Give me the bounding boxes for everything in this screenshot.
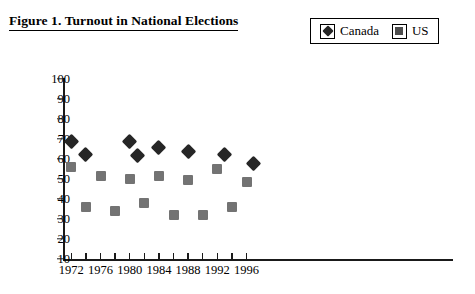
x-axis-tick-mark: [173, 253, 174, 260]
x-axis-tick-mark: [217, 253, 218, 260]
y-axis-tick-mark: [57, 178, 63, 179]
x-axis-tick-label: 1996: [234, 263, 259, 278]
x-axis-tick-label: 1980: [117, 263, 142, 278]
data-point-us: [154, 171, 164, 181]
data-point-canada: [129, 147, 145, 163]
y-axis-tick-mark: [57, 118, 63, 119]
data-point-us: [125, 174, 135, 184]
x-axis-tick-mark: [158, 253, 159, 260]
data-point-us: [96, 171, 106, 181]
x-axis-tick-mark: [231, 253, 232, 260]
y-axis-tick-mark: [57, 238, 63, 239]
data-point-us: [198, 210, 208, 220]
x-axis-tick-mark: [144, 253, 145, 260]
y-axis-tick-mark: [57, 138, 63, 139]
x-axis-tick-mark: [187, 253, 188, 260]
x-axis-tick-label: 1988: [176, 263, 201, 278]
y-axis-tick-mark: [57, 78, 63, 79]
x-axis-tick-mark: [129, 253, 130, 260]
figure-container: Figure 1. Turnout in National Elections …: [0, 0, 475, 294]
x-axis-tick-label: 1984: [146, 263, 171, 278]
x-axis-tick-mark: [246, 253, 247, 260]
x-axis-tick-mark: [100, 253, 101, 260]
data-point-us: [110, 206, 120, 216]
data-point-canada: [180, 143, 196, 159]
x-axis-tick-mark: [71, 253, 72, 260]
data-point-us: [81, 202, 91, 212]
y-axis-tick-mark: [57, 198, 63, 199]
plot-area: 102030405060708090100 197219761980198419…: [0, 0, 475, 294]
y-axis-tick-mark: [57, 258, 63, 259]
data-point-canada: [151, 139, 167, 155]
data-point-canada: [217, 146, 233, 162]
data-point-us: [66, 162, 76, 172]
y-axis-tick-mark: [57, 98, 63, 99]
data-point-us: [242, 177, 252, 187]
data-point-us: [139, 198, 149, 208]
data-point-us: [212, 164, 222, 174]
x-axis-tick-label: 1972: [59, 263, 84, 278]
data-point-canada: [78, 146, 94, 162]
data-point-us: [227, 202, 237, 212]
data-point-canada: [246, 155, 262, 171]
y-axis-tick-mark: [57, 218, 63, 219]
x-axis-tick-label: 1992: [205, 263, 230, 278]
x-axis-tick-mark: [114, 253, 115, 260]
y-axis-tick-mark: [57, 158, 63, 159]
x-axis-tick-mark: [85, 253, 86, 260]
x-axis-line: [63, 259, 453, 261]
data-point-us: [183, 175, 193, 185]
x-axis-tick-mark: [202, 253, 203, 260]
data-point-canada: [122, 133, 138, 149]
data-point-us: [169, 210, 179, 220]
x-axis-tick-label: 1976: [88, 263, 113, 278]
